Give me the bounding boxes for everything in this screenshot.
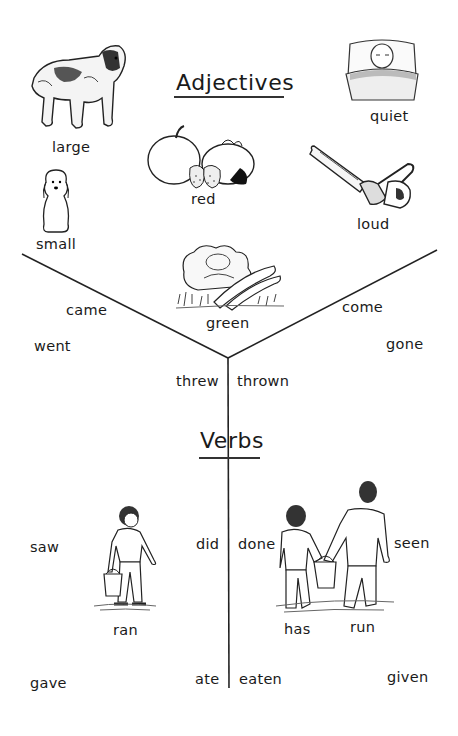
word-gone: gone xyxy=(386,336,423,352)
word-given: given xyxy=(387,669,428,685)
word-threw: threw xyxy=(176,373,219,389)
word-quiet: quiet xyxy=(370,108,409,124)
word-small: small xyxy=(36,236,76,252)
adjectives-underline xyxy=(174,96,284,98)
word-ran: ran xyxy=(113,622,138,638)
word-loud: loud xyxy=(357,216,390,232)
word-saw: saw xyxy=(30,539,59,555)
word-did: did xyxy=(196,536,219,552)
word-ate: ate xyxy=(195,671,219,687)
word-has: has xyxy=(284,621,311,637)
st-bernard-dog-icon xyxy=(24,38,130,134)
two-boys-carrying-bucket-icon xyxy=(274,478,396,616)
word-red: red xyxy=(191,191,216,207)
word-done: done xyxy=(238,536,275,552)
word-came: came xyxy=(66,302,107,318)
poodle-icon xyxy=(38,168,74,234)
word-come: come xyxy=(342,299,383,315)
sleeping-baby-icon xyxy=(340,36,424,102)
word-thrown: thrown xyxy=(237,373,289,389)
word-green: green xyxy=(206,315,249,331)
adjectives-heading: Adjectives xyxy=(176,70,294,95)
word-seen: seen xyxy=(394,535,430,551)
word-went: went xyxy=(34,338,71,354)
word-run: run xyxy=(350,619,375,635)
chainsaw-icon xyxy=(308,144,420,212)
boy-carrying-bucket-icon xyxy=(86,502,162,614)
apple-tomato-strawberries-icon xyxy=(146,124,256,194)
verbs-heading: Verbs xyxy=(200,428,264,453)
word-eaten: eaten xyxy=(239,671,282,687)
word-gave: gave xyxy=(30,675,67,691)
lettuce-peapods-icon xyxy=(174,242,286,314)
word-large: large xyxy=(52,139,90,155)
verbs-underline xyxy=(199,457,260,459)
